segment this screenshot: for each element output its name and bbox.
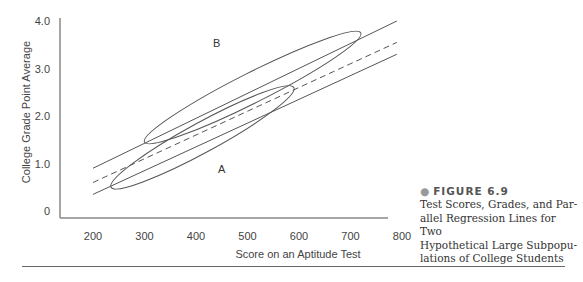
x-tick-label: 700 (341, 230, 359, 242)
bottom-divider (22, 266, 565, 267)
caption-line: lations of College Students (420, 252, 580, 266)
y-tick-label: 0 (44, 205, 50, 217)
x-tick-label: 300 (135, 230, 153, 242)
ellipse-a (104, 74, 301, 200)
y-tick-label: 3.0 (35, 63, 50, 75)
figure-label: ●FIGURE 6.9 (420, 185, 580, 197)
caption-line: allel Regression Lines for Two (420, 212, 580, 239)
y-tick-label: 4.0 (35, 15, 50, 27)
x-tick-label: 400 (187, 230, 205, 242)
ellipse-b (138, 19, 368, 155)
x-tick-label: 600 (290, 230, 308, 242)
x-tick-label: 200 (84, 230, 102, 242)
caption-text: Test Scores, Grades, and Par- allel Regr… (420, 198, 580, 266)
tick-labels: 20030040050060070080001.02.03.04.0 (35, 15, 411, 242)
figure-number: FIGURE 6.9 (433, 185, 509, 197)
caption-line: Hypothetical Large Subpopu- (420, 239, 580, 253)
regression-line-a (93, 54, 397, 194)
x-tick-label: 500 (238, 230, 256, 242)
group-labels: BA (213, 37, 226, 175)
ellipses (104, 19, 368, 200)
group-label-b: B (213, 37, 220, 49)
caption-line: Test Scores, Grades, and Par- (420, 198, 580, 212)
group-label-a: A (218, 163, 226, 175)
regression-line-common (93, 42, 397, 182)
y-axis-title: College Grade Point Average (20, 41, 32, 183)
x-tick-label: 800 (393, 230, 411, 242)
x-axis-title: Score on an Aptitude Test (235, 248, 360, 260)
y-tick-label: 1.0 (35, 158, 50, 170)
figure-caption: ●FIGURE 6.9 Test Scores, Grades, and Par… (420, 185, 580, 266)
bullet-icon: ● (420, 185, 430, 197)
regression-line-b (93, 21, 397, 168)
y-tick-label: 2.0 (35, 110, 50, 122)
